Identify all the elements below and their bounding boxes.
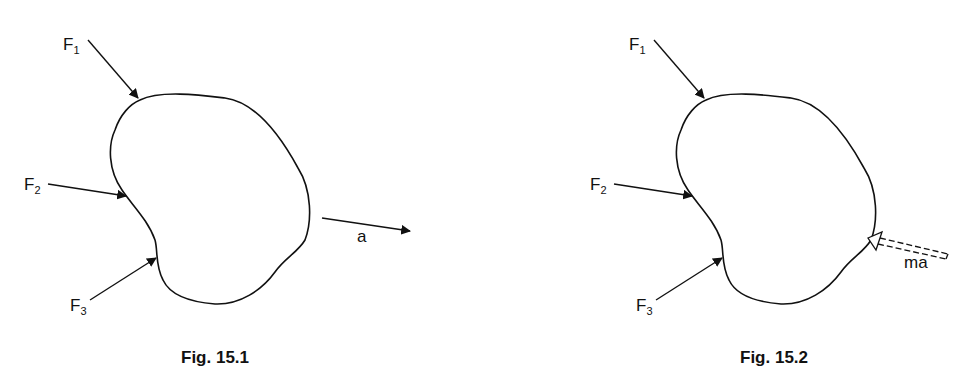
rigid-body-outline — [110, 94, 309, 304]
label-f3: F3 — [70, 297, 87, 317]
figure-15-2 — [614, 40, 948, 304]
force-arrow-f2 — [48, 184, 126, 196]
force-arrow-f1 — [88, 40, 138, 98]
label-acceleration: a — [357, 228, 366, 245]
label-f1: F1 — [63, 36, 80, 56]
figure-caption: Fig. 15.2 — [740, 348, 808, 368]
figure-15-1 — [48, 40, 410, 304]
label-f3: F3 — [636, 297, 653, 317]
force-arrow-f1 — [654, 40, 704, 98]
label-f2: F2 — [590, 176, 607, 196]
label-f1: F1 — [629, 36, 646, 56]
diagram-canvas — [0, 0, 966, 370]
rigid-body-outline — [676, 94, 875, 304]
label-f2: F2 — [24, 176, 41, 196]
force-arrow-f3 — [90, 258, 156, 300]
figure-caption: Fig. 15.1 — [181, 348, 249, 368]
force-arrow-f3 — [656, 258, 722, 300]
label-inertia-force: ma — [904, 254, 928, 271]
force-arrow-f2 — [614, 184, 692, 196]
